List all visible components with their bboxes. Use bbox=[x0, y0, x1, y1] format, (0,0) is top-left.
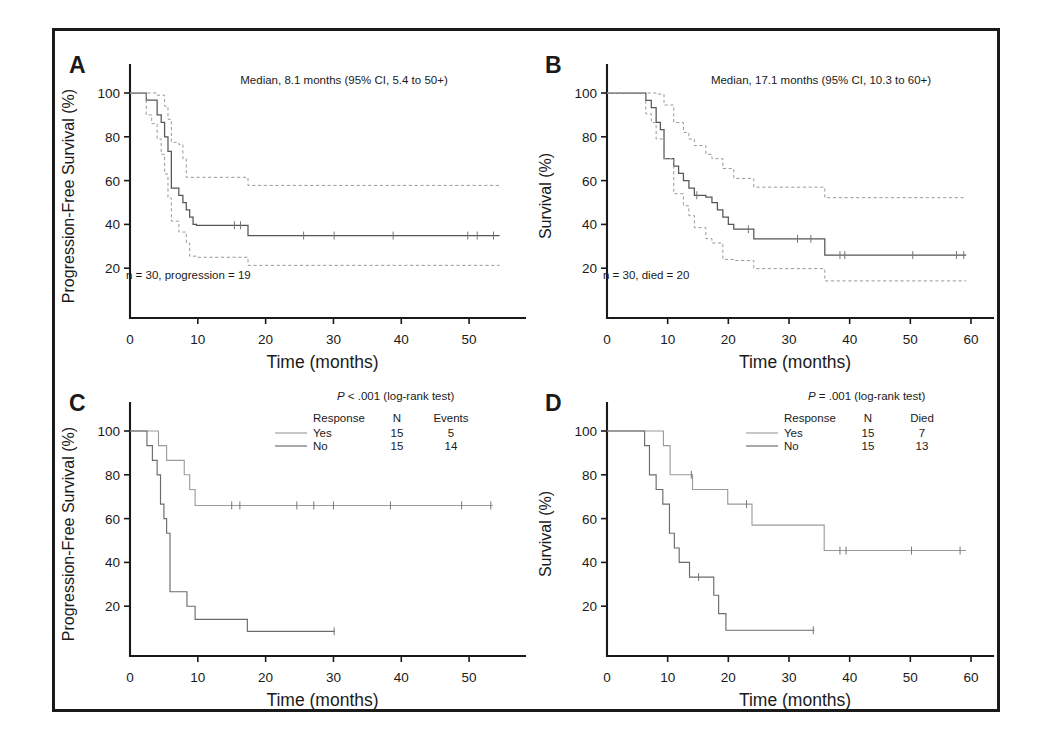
y-axis-title-c: Progression-Free Survival (%) bbox=[60, 427, 77, 641]
panel-b-plot: B204060801000102030405060Time (months)Su… bbox=[529, 31, 997, 373]
x-axis-title-a: Time (months) bbox=[266, 352, 378, 372]
km-curve-a-1 bbox=[130, 93, 500, 185]
y-tick-label-20: 20 bbox=[582, 599, 597, 614]
y-axis-title-a: Progression-Free Survival (%) bbox=[60, 89, 77, 303]
legend-header-n: N bbox=[393, 412, 401, 424]
panel-letter-c: C bbox=[69, 390, 86, 416]
legend-header-response: Response bbox=[784, 412, 836, 424]
y-tick-label-80: 80 bbox=[582, 468, 597, 483]
y-tick-label-100: 100 bbox=[97, 424, 120, 439]
legend-header-events: Events bbox=[433, 412, 468, 424]
x-tick-label-20: 20 bbox=[258, 332, 273, 347]
x-axis-title-d: Time (months) bbox=[739, 690, 851, 710]
panel-d: D204060801000102030405060Time (months)Su… bbox=[529, 373, 997, 711]
y-tick-label-60: 60 bbox=[105, 174, 120, 189]
km-curve-b-1 bbox=[607, 93, 966, 198]
km-curve-a-0 bbox=[130, 93, 500, 236]
x-tick-label-0: 0 bbox=[603, 670, 611, 685]
legend-label-no: No bbox=[313, 440, 328, 452]
legend-count-no: 14 bbox=[445, 440, 458, 452]
x-axis-title-b: Time (months) bbox=[739, 352, 851, 372]
y-tick-label-40: 40 bbox=[582, 217, 597, 232]
legend-header-response: Response bbox=[313, 412, 365, 424]
legend-n-no: 15 bbox=[391, 440, 404, 452]
x-tick-label-0: 0 bbox=[126, 332, 134, 347]
panel-a: A2040608010001020304050Time (months)Prog… bbox=[55, 31, 529, 373]
x-tick-label-30: 30 bbox=[781, 670, 796, 685]
km-curve-b-0 bbox=[607, 93, 966, 255]
x-tick-label-10: 10 bbox=[660, 670, 675, 685]
x-tick-label-10: 10 bbox=[190, 670, 205, 685]
legend-n-no: 15 bbox=[862, 440, 875, 452]
panel-letter-a: A bbox=[69, 52, 86, 78]
x-tick-label-20: 20 bbox=[721, 332, 736, 347]
legend-count-yes: 7 bbox=[919, 427, 925, 439]
figure-frame: A2040608010001020304050Time (months)Prog… bbox=[52, 28, 1000, 712]
panel-d-plot: D204060801000102030405060Time (months)Su… bbox=[529, 373, 997, 711]
x-tick-label-40: 40 bbox=[394, 332, 409, 347]
legend-count-yes: 5 bbox=[448, 427, 454, 439]
p-rest: < .001 (log-rank test) bbox=[345, 390, 455, 402]
n-annotation-a: n = 30, progression = 19 bbox=[126, 269, 251, 281]
y-tick-label-80: 80 bbox=[582, 130, 597, 145]
x-tick-label-0: 0 bbox=[126, 670, 134, 685]
y-tick-label-100: 100 bbox=[574, 424, 597, 439]
x-tick-label-60: 60 bbox=[963, 332, 978, 347]
y-tick-label-20: 20 bbox=[582, 261, 597, 276]
legend-header-n: N bbox=[864, 412, 872, 424]
y-tick-label-100: 100 bbox=[574, 86, 597, 101]
x-tick-label-10: 10 bbox=[190, 332, 205, 347]
y-tick-label-60: 60 bbox=[105, 512, 120, 527]
panel-a-plot: A2040608010001020304050Time (months)Prog… bbox=[55, 31, 529, 373]
x-tick-label-30: 30 bbox=[326, 670, 341, 685]
median-annotation-b: Median, 17.1 months (95% CI, 10.3 to 60+… bbox=[711, 74, 931, 86]
legend-label-no: No bbox=[784, 440, 799, 452]
y-tick-label-40: 40 bbox=[105, 555, 120, 570]
km-curve-c-1 bbox=[130, 431, 335, 631]
x-tick-label-60: 60 bbox=[963, 670, 978, 685]
y-tick-label-40: 40 bbox=[582, 555, 597, 570]
figure-root: A2040608010001020304050Time (months)Prog… bbox=[0, 0, 1044, 742]
panel-b: B204060801000102030405060Time (months)Su… bbox=[529, 31, 997, 373]
km-curve-a-2 bbox=[130, 93, 500, 265]
km-curve-c-0 bbox=[130, 431, 493, 505]
legend-n-yes: 15 bbox=[862, 427, 875, 439]
y-tick-label-60: 60 bbox=[582, 174, 597, 189]
panel-c: C2040608010001020304050Time (months)Prog… bbox=[55, 373, 529, 711]
y-tick-label-40: 40 bbox=[105, 217, 120, 232]
y-tick-label-20: 20 bbox=[105, 599, 120, 614]
panel-letter-b: B bbox=[545, 52, 562, 78]
panel-letter-d: D bbox=[545, 390, 562, 416]
y-tick-label-80: 80 bbox=[105, 468, 120, 483]
y-tick-label-20: 20 bbox=[105, 261, 120, 276]
y-tick-label-60: 60 bbox=[582, 512, 597, 527]
p-value-text-c: P < .001 (log-rank test) bbox=[337, 390, 454, 402]
median-annotation-a: Median, 8.1 months (95% CI, 5.4 to 50+) bbox=[240, 74, 448, 86]
x-axis-title-c: Time (months) bbox=[266, 690, 378, 710]
x-tick-label-20: 20 bbox=[721, 670, 736, 685]
panel-c-plot: C2040608010001020304050Time (months)Prog… bbox=[55, 373, 529, 711]
p-rest: = .001 (log-rank test) bbox=[816, 390, 926, 402]
x-tick-label-50: 50 bbox=[462, 670, 477, 685]
x-tick-label-50: 50 bbox=[903, 670, 918, 685]
p-value-text-d: P = .001 (log-rank test) bbox=[808, 390, 925, 402]
legend-header-events: Died bbox=[910, 412, 934, 424]
legend-label-yes: Yes bbox=[784, 427, 803, 439]
legend-count-no: 13 bbox=[916, 440, 929, 452]
n-annotation-b: n = 30, died = 20 bbox=[603, 269, 689, 281]
x-tick-label-50: 50 bbox=[462, 332, 477, 347]
x-tick-label-0: 0 bbox=[603, 332, 611, 347]
x-tick-label-30: 30 bbox=[781, 332, 796, 347]
axes-spine bbox=[607, 403, 993, 656]
x-tick-label-50: 50 bbox=[903, 332, 918, 347]
x-tick-label-40: 40 bbox=[842, 670, 857, 685]
legend-n-yes: 15 bbox=[391, 427, 404, 439]
km-curve-d-1 bbox=[607, 431, 814, 630]
y-axis-title-b: Survival (%) bbox=[537, 153, 554, 239]
x-tick-label-40: 40 bbox=[394, 670, 409, 685]
y-tick-label-80: 80 bbox=[105, 130, 120, 145]
x-tick-label-40: 40 bbox=[842, 332, 857, 347]
y-axis-title-d: Survival (%) bbox=[537, 491, 554, 577]
x-tick-label-10: 10 bbox=[660, 332, 675, 347]
legend-label-yes: Yes bbox=[313, 427, 332, 439]
